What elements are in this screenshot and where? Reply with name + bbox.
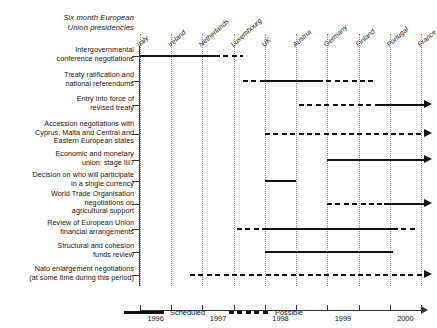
bar-segment-scheduled <box>265 180 296 183</box>
row-label-line: national referendums <box>0 80 134 89</box>
bar-segment-possible <box>190 274 424 277</box>
presidency-header-italy: Italy <box>135 34 149 48</box>
row-label-line: conference negotiations <box>0 55 134 64</box>
bar-segment-possible <box>327 203 383 206</box>
bar-segment-scheduled <box>140 55 215 58</box>
row-bracket-tick <box>132 204 140 205</box>
row-label: Entry into force ofrevised treaty <box>0 95 134 112</box>
bar-segment-possible <box>299 104 377 107</box>
presidency-header-france: France <box>416 28 437 48</box>
row-label-line: financial arrangements <box>0 228 134 237</box>
row-label-line: Eastern European states <box>0 137 134 146</box>
bar-segment-scheduled <box>384 203 425 206</box>
chart-title-line: Union presidencies <box>8 23 134 33</box>
row-bracket-tick <box>132 229 140 230</box>
bar-segment-scheduled <box>265 228 393 231</box>
legend: ScheduledPossible <box>0 308 427 317</box>
row-bracket-tick <box>132 134 140 135</box>
row-bracket-tick <box>132 160 140 161</box>
presidency-header-uk: UK <box>260 36 272 48</box>
bar-segment-scheduled <box>265 80 318 83</box>
row-label: Review of European Unionfinancial arrang… <box>0 219 134 236</box>
presidency-header-luxembourg: Luxembourg <box>229 17 263 48</box>
bar-segment-scheduled <box>265 251 393 254</box>
legend-swatch-possible <box>229 311 269 314</box>
row-label: Intergovernmentalconference negotiations <box>0 46 134 63</box>
row-bracket-tick <box>132 105 140 106</box>
legend-label: Possible <box>275 308 303 317</box>
gridline-luxembourg <box>234 34 235 286</box>
row-bracket-tick <box>132 275 140 276</box>
bar-segment-possible <box>318 80 377 83</box>
chart-title-line: Six month European <box>8 13 134 23</box>
bar-segment-possible <box>215 55 243 58</box>
bar-arrow-icon <box>424 199 432 207</box>
row-label-line: revised treaty <box>0 104 134 113</box>
row-label: Economic and monetaryunion: stage III? <box>0 150 134 167</box>
row-bracket-tick <box>132 181 140 182</box>
legend-item-scheduled: Scheduled <box>124 308 205 317</box>
presidency-header-finland: Finland <box>354 27 376 48</box>
row-label: World Trade Organisationnegotiations ona… <box>0 190 134 216</box>
bar-segment-possible <box>265 133 424 136</box>
row-label: Accession negotiations withCyprus, Malta… <box>0 120 134 146</box>
row-label-line: agricultural support <box>0 207 134 216</box>
presidency-header-portugal: Portugal <box>385 25 409 48</box>
chart-title: Six month EuropeanUnion presidencies <box>8 13 134 32</box>
row-label-line: union: stage III? <box>0 159 134 168</box>
presidency-header-ireland: Ireland <box>167 28 188 48</box>
gridline-ireland <box>171 34 172 286</box>
row-label-line: funds review <box>0 251 134 260</box>
row-bracket-tick <box>132 252 140 253</box>
presidency-header-germany: Germany <box>323 24 349 48</box>
bar-arrow-icon <box>424 270 432 278</box>
bar-arrow-icon <box>424 100 432 108</box>
gridline-netherlands <box>202 34 203 286</box>
row-label: Treaty ratification andnational referend… <box>0 71 134 88</box>
row-bracket-tick <box>132 56 140 57</box>
presidency-header-austria: Austria <box>291 28 312 48</box>
gridline-uk <box>265 34 266 286</box>
bar-segment-possible <box>237 228 265 231</box>
legend-swatch-scheduled <box>124 311 164 314</box>
presidency-header-netherlands: Netherlands <box>198 18 231 48</box>
row-label: Structural and cohesionfunds review <box>0 242 134 259</box>
plot-area: ItalyIrelandNetherlandsLuxembourgUKAustr… <box>140 24 427 286</box>
bar-segment-possible <box>243 80 265 83</box>
gridline-italy <box>140 34 141 286</box>
gridline-austria <box>296 34 297 286</box>
bar-arrow-icon <box>424 129 432 137</box>
row-label-line: (at some time during this period) <box>0 274 134 283</box>
legend-label: Scheduled <box>170 308 205 317</box>
row-label-line: in a single currency <box>0 180 134 189</box>
bar-segment-possible <box>393 228 416 231</box>
bar-segment-scheduled <box>327 159 424 162</box>
bar-segment-scheduled <box>377 104 424 107</box>
row-label: Decision on who will participatein a sin… <box>0 171 134 188</box>
legend-item-possible: Possible <box>229 308 303 317</box>
row-bracket-tick <box>132 81 140 82</box>
bar-arrow-icon <box>424 155 432 163</box>
row-label: Nato enlargement negotiations(at some ti… <box>0 265 134 282</box>
